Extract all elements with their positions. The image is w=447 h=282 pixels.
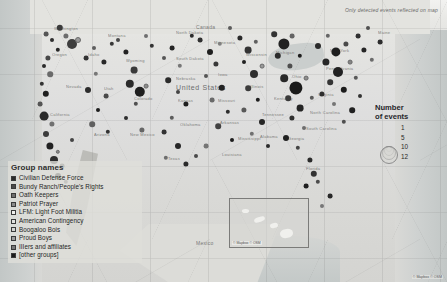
map-visualization: WashingtonMontanaNorth DakotaMinnesotaMa… — [0, 0, 447, 282]
event-dot[interactable] — [38, 102, 43, 107]
place-label: Utah — [104, 86, 114, 91]
place-label: South Carolina — [306, 126, 337, 131]
place-label: Tennessee — [262, 112, 284, 117]
event-dot[interactable] — [285, 95, 291, 101]
event-dot[interactable] — [84, 56, 89, 61]
place-label: Missouri — [218, 98, 235, 103]
place-label: South Dakota — [176, 56, 204, 61]
event-dot[interactable] — [283, 135, 289, 141]
group-legend-item[interactable]: Civilian Defense Force — [11, 174, 139, 183]
event-dot[interactable] — [144, 84, 149, 89]
event-dot[interactable] — [85, 87, 91, 93]
event-dot[interactable] — [75, 37, 81, 43]
group-legend-label: Bundy Ranch/People's Rights — [19, 183, 103, 192]
event-dot[interactable] — [210, 98, 215, 103]
group-legend-item[interactable]: American Contingency — [11, 217, 139, 226]
group-legend-item[interactable]: LFM: Light Foot Militia — [11, 208, 139, 217]
event-dot[interactable] — [242, 60, 246, 64]
event-dot[interactable] — [124, 116, 128, 120]
event-dot[interactable] — [162, 130, 167, 135]
event-dot[interactable] — [116, 38, 120, 42]
group-legend-item[interactable]: Proud Boys — [11, 234, 139, 243]
event-dot[interactable] — [266, 144, 270, 148]
event-dot[interactable] — [50, 38, 54, 42]
event-dot[interactable] — [302, 126, 306, 130]
size-legend-value: 10 — [401, 143, 408, 150]
event-dot[interactable] — [349, 107, 355, 113]
group-color-swatch — [11, 202, 16, 207]
event-dot[interactable] — [70, 138, 74, 142]
place-label: Wyoming — [126, 58, 145, 63]
place-label: Maine — [378, 30, 390, 35]
event-dot[interactable] — [297, 105, 304, 112]
event-dot[interactable] — [194, 154, 198, 158]
group-legend-title: Group names — [11, 163, 139, 173]
group-legend-label: [other groups] — [19, 251, 59, 260]
event-dot[interactable] — [162, 56, 166, 60]
event-dot[interactable] — [271, 31, 277, 37]
group-legend-item[interactable]: Bundy Ranch/People's Rights — [11, 183, 139, 192]
event-dot[interactable] — [358, 94, 362, 98]
event-dot[interactable] — [259, 119, 265, 125]
group-legend-label: Boogaloo Bois — [19, 226, 60, 235]
event-dot[interactable] — [250, 70, 258, 78]
event-dot[interactable] — [92, 46, 96, 50]
event-dot[interactable] — [40, 112, 49, 121]
place-label: New Mexico — [130, 132, 155, 137]
event-dot[interactable] — [104, 94, 109, 99]
event-dot[interactable] — [327, 79, 333, 85]
group-legend-label: Patriot Prayer — [19, 200, 58, 209]
event-dot[interactable] — [280, 74, 288, 82]
event-dot[interactable] — [43, 131, 49, 137]
event-dot[interactable] — [245, 85, 251, 91]
group-legend-item[interactable]: IIIers and affiliates — [11, 243, 139, 252]
group-color-swatch — [11, 227, 16, 232]
event-dot[interactable] — [290, 34, 295, 39]
place-label: California — [50, 112, 70, 117]
event-dot[interactable] — [170, 46, 175, 51]
event-dot[interactable] — [320, 204, 324, 208]
event-dot[interactable] — [304, 76, 309, 81]
event-dot[interactable] — [144, 34, 148, 38]
event-dot[interactable] — [207, 49, 213, 55]
event-dot[interactable] — [96, 108, 100, 112]
event-dot[interactable] — [89, 121, 95, 127]
event-dot[interactable] — [366, 26, 370, 30]
event-dot[interactable] — [47, 71, 53, 77]
group-legend-item[interactable]: [other groups] — [11, 251, 139, 260]
event-dot[interactable] — [230, 138, 234, 142]
group-legend-item[interactable]: Oath Keepers — [11, 191, 139, 200]
place-label: Texas — [168, 156, 180, 161]
group-color-swatch — [11, 245, 16, 250]
event-dot[interactable] — [333, 67, 343, 77]
event-dot[interactable] — [42, 64, 46, 68]
event-dot[interactable] — [215, 123, 221, 129]
event-dot[interactable] — [204, 144, 209, 149]
hawaii-island-shape — [279, 228, 293, 239]
event-dot[interactable] — [332, 102, 336, 106]
group-legend-item[interactable]: Boogaloo Bois — [11, 226, 139, 235]
event-dot[interactable] — [175, 143, 181, 149]
event-dot[interactable] — [176, 90, 180, 94]
event-dot[interactable] — [198, 38, 203, 43]
hawaii-inset[interactable]: © Mapbox © OSM — [229, 198, 309, 248]
group-legend-item[interactable]: Patriot Prayer — [11, 200, 139, 209]
event-dot[interactable] — [165, 77, 171, 83]
inset-attribution: © Mapbox © OSM — [232, 241, 262, 245]
place-label: Arkansas — [220, 120, 239, 125]
event-dot[interactable] — [245, 47, 252, 54]
event-dot[interactable] — [228, 26, 232, 30]
event-dot[interactable] — [328, 194, 333, 199]
event-dot[interactable] — [131, 67, 138, 74]
group-legend-rows: Civilian Defense ForceBundy Ranch/People… — [11, 174, 139, 260]
event-dot[interactable] — [304, 184, 309, 189]
group-color-swatch — [11, 210, 16, 215]
event-dot[interactable] — [356, 34, 361, 39]
event-dot[interactable] — [204, 74, 208, 78]
event-dot[interactable] — [44, 32, 49, 37]
event-dot[interactable] — [348, 60, 353, 65]
event-dot[interactable] — [315, 43, 321, 49]
event-dot[interactable] — [378, 40, 383, 45]
event-dot[interactable] — [260, 64, 265, 69]
hawaii-island-shape — [270, 222, 279, 229]
